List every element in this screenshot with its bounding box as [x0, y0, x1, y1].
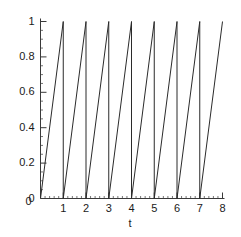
data-series-group [41, 22, 223, 199]
y-tick-label: 1 [0, 16, 35, 27]
x-axis-title: t [129, 218, 132, 229]
y-tick-label: 0.4 [0, 122, 35, 133]
x-tick-label: 8 [203, 203, 241, 214]
y-tick-label: 0.8 [0, 51, 35, 62]
y-tick-label: 0.2 [0, 157, 35, 168]
y-tick-label: 0.6 [0, 86, 35, 97]
chart-figure: 00.20.40.60.81 012345678 t [0, 0, 240, 237]
minor-tick-group [41, 30, 218, 198]
sawtooth-series-line [41, 22, 223, 199]
